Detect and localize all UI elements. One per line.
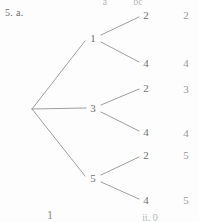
edge-5-to-4 xyxy=(101,182,139,199)
tree-node-level2-5-4: 4 xyxy=(143,195,149,206)
clipped-bottom-right-text: ii. 0 xyxy=(142,212,158,222)
tree-node-level2-3-2: 2 xyxy=(143,83,149,94)
edge-1-to-2 xyxy=(101,17,139,35)
tree-node-level1-5: 5 xyxy=(90,173,96,184)
edge-3-to-2 xyxy=(101,89,139,105)
clipped-bottom-left-text: 1 xyxy=(47,208,53,222)
tree-node-level2-5-2: 2 xyxy=(143,150,149,161)
tree-node-level1-1: 1 xyxy=(90,33,96,44)
tree-node-level1-3: 3 xyxy=(90,103,96,114)
tree-node-level2-1-2: 2 xyxy=(143,10,149,21)
outcome-value-1: 2 xyxy=(183,10,189,21)
tree-node-level2-3-4: 4 xyxy=(143,127,149,138)
edge-root-to-1 xyxy=(32,41,85,109)
edge-1-to-4 xyxy=(101,42,139,62)
outcome-value-4: 4 xyxy=(183,128,189,139)
edge-root-to-5 xyxy=(32,109,85,176)
edge-root-to-3 xyxy=(32,108,86,109)
tree-diagram-edges xyxy=(0,0,199,222)
outcome-value-3: 3 xyxy=(183,84,189,95)
tree-node-level2-1-4: 4 xyxy=(143,58,149,69)
outcome-value-5: 5 xyxy=(183,150,189,161)
edge-5-to-2 xyxy=(101,157,139,175)
scanned-worksheet-page: a bc 5. a. 1 3 5 2 4 2 4 2 4 2 4 3 4 5 5… xyxy=(0,0,199,222)
outcome-value-6: 5 xyxy=(183,195,189,206)
edge-3-to-4 xyxy=(101,112,139,131)
outcome-value-2: 4 xyxy=(183,58,189,69)
